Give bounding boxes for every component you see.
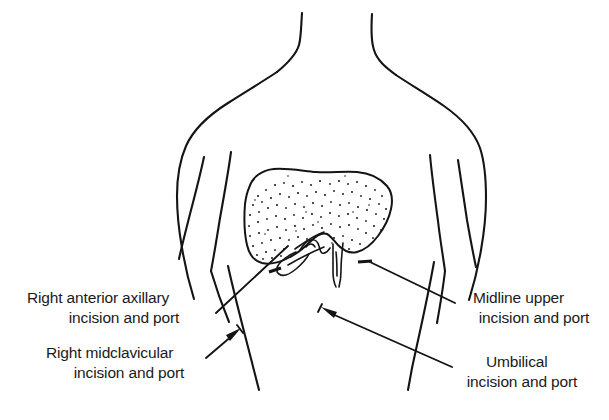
left-arm-inner-outline: [179, 157, 204, 259]
port-marks-group: [269, 261, 372, 272]
arrowhead-umbilical: [321, 307, 337, 318]
common-bile-duct-left: [333, 244, 336, 287]
leader-midline-upper: [370, 262, 455, 303]
right-arm-inner-outline: [458, 160, 476, 267]
label-umbilical-line2: incision and port: [467, 373, 578, 390]
label-right-midclavicular-line1: Right midclavicular: [46, 344, 173, 361]
torso-left-lower: [228, 266, 259, 390]
duct-shading: [336, 252, 337, 276]
label-midline-upper-line2: incision and port: [479, 309, 590, 326]
port-mark-right-anterior-axillary: [269, 268, 281, 272]
left-arm-outer-outline: [211, 152, 231, 271]
common-bile-duct-right: [339, 243, 343, 287]
anatomical-diagram: Right anterior axillary incision and por…: [0, 0, 609, 420]
figure-root: Right anterior axillary incision and por…: [0, 0, 609, 420]
leader-lines-group: [206, 246, 455, 367]
labels-group: Right anterior axillary incision and por…: [27, 289, 590, 390]
label-umbilical-line1: Umbilical: [486, 353, 548, 370]
neck-right-outline: [371, 14, 396, 75]
left-forearm-outline: [211, 271, 229, 322]
label-midline-upper-line1: Midline upper: [473, 289, 564, 306]
leader-umbilical: [330, 313, 452, 367]
shoulder-right-outline: [396, 75, 486, 198]
label-right-anterior-axillary-line2: incision and port: [69, 309, 180, 326]
arrowhead-bar-umbilical: [318, 304, 322, 312]
neck-left-outline: [277, 13, 302, 72]
label-right-anterior-axillary-line1: Right anterior axillary: [27, 289, 170, 306]
label-right-midclavicular-line2: incision and port: [74, 364, 185, 381]
right-arm-outer-outline: [430, 155, 445, 271]
